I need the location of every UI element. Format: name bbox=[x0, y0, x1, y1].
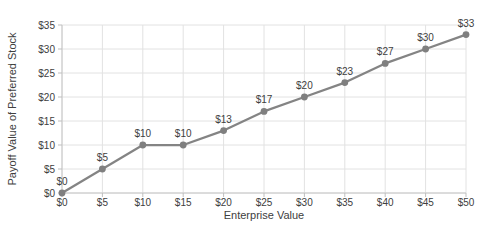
labels-layer: $0$5$10$15$20$25$30$35$0$5$10$15$20$25$3… bbox=[38, 18, 474, 208]
y-tick-label: $10 bbox=[38, 140, 55, 151]
chart-canvas: $0$5$10$15$20$25$30$35$0$5$10$15$20$25$3… bbox=[0, 0, 490, 232]
data-point-label: $30 bbox=[417, 32, 434, 43]
x-tick-label: $5 bbox=[97, 197, 109, 208]
x-tick-label: $20 bbox=[215, 197, 232, 208]
x-tick-label: $45 bbox=[417, 197, 434, 208]
data-point-marker bbox=[341, 79, 348, 86]
y-tick-label: $20 bbox=[38, 92, 55, 103]
x-axis-title: Enterprise Value bbox=[224, 209, 305, 221]
y-tick-label: $30 bbox=[38, 44, 55, 55]
data-point-label: $13 bbox=[215, 114, 232, 125]
y-tick-label: $5 bbox=[44, 164, 56, 175]
y-tick-label: $15 bbox=[38, 116, 55, 127]
y-tick-label: $35 bbox=[38, 20, 55, 31]
data-point-label: $27 bbox=[377, 46, 394, 57]
data-point-label: $0 bbox=[56, 176, 68, 187]
data-point-marker bbox=[261, 108, 268, 115]
data-point-label: $5 bbox=[97, 152, 109, 163]
y-tick-label: $0 bbox=[44, 188, 56, 199]
x-tick-label: $10 bbox=[134, 197, 151, 208]
y-axis-title: Payoff Value of Preferred Stock bbox=[6, 32, 18, 186]
x-tick-label: $35 bbox=[336, 197, 353, 208]
y-tick-label: $25 bbox=[38, 68, 55, 79]
data-point-label: $10 bbox=[134, 128, 151, 139]
data-point-label: $23 bbox=[336, 66, 353, 77]
data-point-marker bbox=[139, 142, 146, 149]
data-point-marker bbox=[301, 94, 308, 101]
data-point-marker bbox=[382, 60, 389, 67]
data-point-label: $17 bbox=[256, 94, 273, 105]
x-tick-label: $25 bbox=[256, 197, 273, 208]
x-tick-label: $0 bbox=[56, 197, 68, 208]
data-point-marker bbox=[220, 127, 227, 134]
x-tick-label: $40 bbox=[377, 197, 394, 208]
data-point-marker bbox=[422, 46, 429, 53]
data-point-label: $20 bbox=[296, 80, 313, 91]
data-point-marker bbox=[180, 142, 187, 149]
data-point-label: $33 bbox=[458, 18, 475, 29]
data-point-label: $10 bbox=[175, 128, 192, 139]
x-tick-label: $50 bbox=[458, 197, 475, 208]
x-tick-label: $15 bbox=[175, 197, 192, 208]
x-tick-label: $30 bbox=[296, 197, 313, 208]
data-point-marker bbox=[59, 190, 66, 197]
data-point-marker bbox=[463, 31, 470, 38]
data-point-marker bbox=[99, 166, 106, 173]
payoff-line-chart: $0$5$10$15$20$25$30$35$0$5$10$15$20$25$3… bbox=[0, 0, 490, 232]
